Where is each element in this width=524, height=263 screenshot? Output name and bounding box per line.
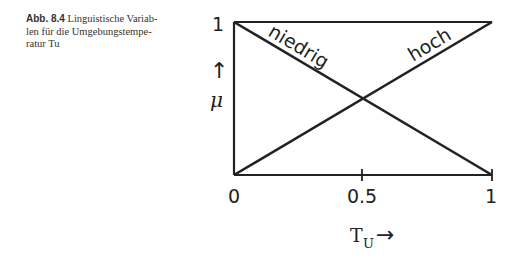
x-arrow-icon: → (376, 222, 394, 247)
x-label-sub: U (363, 236, 374, 251)
x-tick-label-0: 0 (228, 185, 240, 207)
membership-diagram: niedrig hoch 1 ↑ μ 0 0.5 1 T U → (0, 0, 524, 263)
y-tick-1: 1 (212, 13, 224, 35)
x-tick-label-1: 1 (485, 185, 497, 207)
x-label-main: T (350, 224, 363, 246)
y-arrow-icon: ↑ (210, 58, 228, 83)
x-tick-label-0.5: 0.5 (347, 185, 377, 207)
y-label: μ (210, 88, 223, 112)
